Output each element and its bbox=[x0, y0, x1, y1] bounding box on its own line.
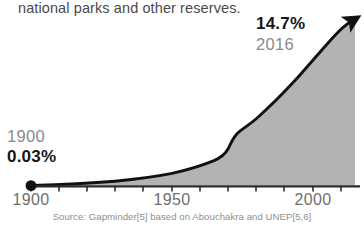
annotation-endpoint: 14.7% 2016 bbox=[256, 14, 305, 54]
annotation-start-year: 1900 bbox=[7, 126, 56, 146]
annotation-start-value: 0.03% bbox=[7, 146, 56, 167]
start-point-marker bbox=[26, 180, 37, 191]
x-tick-label-1950: 1950 bbox=[154, 191, 191, 209]
annotation-end-value: 14.7% bbox=[256, 14, 305, 34]
source-note: Source: Gapminder[5] based on Abouchakra… bbox=[0, 211, 364, 222]
annotation-startpoint: 1900 0.03% bbox=[7, 126, 56, 167]
x-tick-label-2000: 2000 bbox=[295, 191, 332, 209]
x-tick-label-1900: 1900 bbox=[13, 191, 50, 209]
area-fill bbox=[31, 19, 355, 186]
annotation-end-year: 2016 bbox=[256, 34, 305, 54]
chart-figure: national parks and other reserves. bbox=[0, 0, 364, 235]
